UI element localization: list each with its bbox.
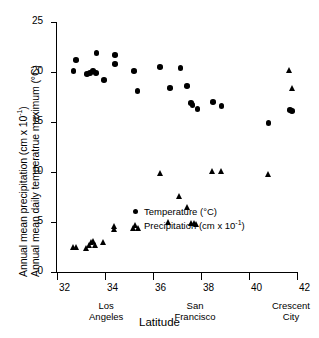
y-axis-title: Annual mean precipitation (cm x 10-1) An… xyxy=(0,0,40,290)
y-axis-tick: 0 xyxy=(51,272,56,273)
temperature-data-point xyxy=(266,120,272,126)
y-axis-tick-label: 25 xyxy=(32,15,43,26)
precipitation-data-point xyxy=(176,193,182,199)
x-axis-tick-label: 42 xyxy=(299,282,310,293)
temperature-data-point xyxy=(219,103,225,109)
temperature-data-point xyxy=(178,65,184,71)
legend-label: Precipitation (cm x 10-1) xyxy=(142,216,245,232)
x-axis-title: Latitude xyxy=(0,316,319,328)
temperature-data-point xyxy=(167,85,173,91)
precipitation-data-point xyxy=(73,244,79,250)
temperature-data-point xyxy=(112,61,118,67)
triangle-marker-icon xyxy=(130,218,142,231)
y-axis-tick: 5 xyxy=(51,222,56,223)
x-axis-tick xyxy=(249,273,250,280)
precipitation-data-point xyxy=(111,223,117,229)
precipitation-data-point xyxy=(209,168,215,174)
temperature-data-point xyxy=(101,77,107,83)
x-axis-tick xyxy=(57,273,58,280)
x-axis-tick-label: 38 xyxy=(203,282,214,293)
temperature-data-point xyxy=(73,57,79,63)
chart-legend: Temperature (°C)Precipitation (cm x 10-1… xyxy=(130,205,245,231)
temperature-data-point xyxy=(93,70,99,76)
temperature-data-point xyxy=(112,52,118,58)
precipitation-data-point xyxy=(265,171,271,177)
temperature-data-point xyxy=(131,68,137,74)
y-axis-tick: 10 xyxy=(51,172,56,173)
circle-marker-icon xyxy=(130,205,142,218)
y-axis-tick-label: 0 xyxy=(37,265,43,276)
precipitation-data-point xyxy=(157,170,163,176)
y-axis-tick: 25 xyxy=(51,22,56,23)
y-axis-tick-label: 15 xyxy=(32,115,43,126)
temperature-data-point xyxy=(195,106,201,112)
temperature-data-point xyxy=(210,99,216,105)
temperature-data-point xyxy=(94,50,100,56)
legend-item: Precipitation (cm x 10-1) xyxy=(130,218,245,231)
temperature-data-point xyxy=(289,108,295,114)
precipitation-data-point xyxy=(289,85,295,91)
x-axis-tick xyxy=(201,273,202,280)
x-axis-line xyxy=(56,272,298,273)
city-label-line: San xyxy=(174,300,215,311)
temperature-data-point xyxy=(184,83,190,89)
temperature-data-point xyxy=(157,64,163,70)
city-label-line: Los xyxy=(89,300,123,311)
y-axis-tick: 20 xyxy=(51,72,56,73)
y-axis-line xyxy=(56,22,57,273)
x-axis-tick-label: 34 xyxy=(107,282,118,293)
temperature-data-point xyxy=(135,88,141,94)
plot-area: 0510152025 323436384042 LosAngelesSanFra… xyxy=(57,22,297,272)
precipitation-data-point xyxy=(218,168,224,174)
city-label-line: Crescent xyxy=(272,300,310,311)
x-axis-tick-label: 36 xyxy=(155,282,166,293)
y-axis-tick-label: 20 xyxy=(32,65,43,76)
y-axis-tick: 15 xyxy=(51,122,56,123)
x-axis-tick xyxy=(105,273,106,280)
x-axis-tick xyxy=(297,273,298,280)
precipitation-data-point xyxy=(100,239,106,245)
scatter-chart-figure: Annual mean precipitation (cm x 10-1) An… xyxy=(0,0,319,338)
precipitation-data-point xyxy=(286,67,292,73)
x-axis-tick-label: 40 xyxy=(251,282,262,293)
precipitation-data-point xyxy=(92,242,98,248)
temperature-data-point xyxy=(71,68,77,74)
y-axis-tick-label: 10 xyxy=(32,165,43,176)
y-axis-tick-label: 5 xyxy=(37,215,43,226)
y-axis-title-line-precipitation: Annual mean precipitation (cm x 10-1) xyxy=(16,106,28,277)
x-axis-tick xyxy=(153,273,154,280)
x-axis-tick-label: 32 xyxy=(59,282,70,293)
